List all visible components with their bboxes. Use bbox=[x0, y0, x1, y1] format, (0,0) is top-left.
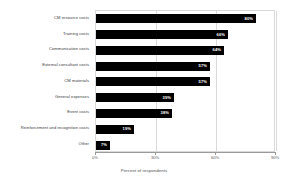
bar-value-label: 66% bbox=[217, 33, 229, 37]
bar-row[interactable]: 57% bbox=[96, 74, 276, 90]
bar-rows: 80%66%64%57%57%39%38%19%7% bbox=[96, 11, 276, 153]
bar[interactable]: 64% bbox=[96, 46, 224, 55]
bar-value-label: 19% bbox=[123, 127, 135, 131]
plot-area: 80%66%64%57%57%39%38%19%7% bbox=[95, 10, 275, 152]
bar-row[interactable]: 66% bbox=[96, 27, 276, 43]
bar[interactable]: 38% bbox=[96, 109, 172, 118]
bar-row[interactable]: 38% bbox=[96, 106, 276, 122]
category-label: Training costs bbox=[0, 26, 92, 42]
bar-value-label: 39% bbox=[163, 96, 175, 100]
bar[interactable]: 57% bbox=[96, 77, 210, 86]
bar[interactable]: 7% bbox=[96, 141, 110, 150]
x-tick-label: 30% bbox=[151, 156, 159, 160]
bar-row[interactable]: 57% bbox=[96, 58, 276, 74]
category-label: Communication costs bbox=[0, 42, 92, 58]
x-axis-title: Percent of respondents bbox=[0, 169, 288, 173]
category-label: Other bbox=[0, 136, 92, 152]
category-axis-labels: CM resource costsTraining costsCommunica… bbox=[0, 10, 92, 152]
category-label: Event costs bbox=[0, 105, 92, 121]
category-label: External consultant costs bbox=[0, 57, 92, 73]
bar-row[interactable]: 39% bbox=[96, 90, 276, 106]
bar[interactable]: 19% bbox=[96, 125, 134, 134]
category-label: General expenses bbox=[0, 89, 92, 105]
category-label: CM materials bbox=[0, 73, 92, 89]
bar-value-label: 80% bbox=[245, 17, 257, 21]
x-axis-line bbox=[95, 152, 275, 153]
bar-value-label: 57% bbox=[199, 64, 211, 68]
category-label: CM resource costs bbox=[0, 10, 92, 26]
bar[interactable]: 57% bbox=[96, 62, 210, 71]
bar-value-label: 64% bbox=[213, 48, 225, 52]
bar-row[interactable]: 7% bbox=[96, 137, 276, 153]
category-label: Reinforcement and recognition costs bbox=[0, 120, 92, 136]
bar-value-label: 57% bbox=[199, 80, 211, 84]
bar-row[interactable]: 19% bbox=[96, 121, 276, 137]
bar[interactable]: 66% bbox=[96, 30, 228, 39]
bar[interactable]: 39% bbox=[96, 93, 174, 102]
bar-chart: 80%66%64%57%57%39%38%19%7% CM resource c… bbox=[0, 0, 288, 185]
bar-value-label: 38% bbox=[161, 111, 173, 115]
x-tick-label: 90% bbox=[271, 156, 279, 160]
x-tick-label: 60% bbox=[211, 156, 219, 160]
bar-row[interactable]: 80% bbox=[96, 11, 276, 27]
x-tick-label: 0% bbox=[92, 156, 98, 160]
bar[interactable]: 80% bbox=[96, 14, 256, 23]
gridline bbox=[276, 11, 277, 151]
bar-value-label: 7% bbox=[101, 143, 110, 147]
bar-row[interactable]: 64% bbox=[96, 43, 276, 59]
